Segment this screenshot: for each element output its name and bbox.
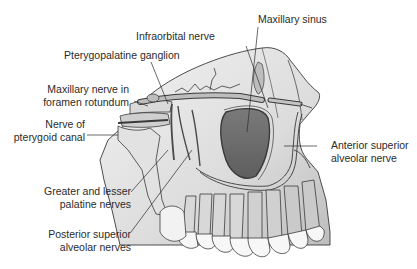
maxillary-nerve-diagram: Infraorbital nerve Maxillary sinus Ptery… (0, 0, 417, 269)
label-infraorbital-nerve: Infraorbital nerve (136, 30, 215, 43)
label-greater-lesser-palatine-nerves: Greater and lesser palatine nerves (44, 185, 131, 210)
label-maxillary-nerve-foramen-rotundum: Maxillary nerve in foramen rotundum (43, 83, 129, 108)
label-posterior-superior-alveolar-nerves: Posterior superior alveolar nerves (48, 228, 131, 253)
label-pterygopalatine-ganglion: Pterygopalatine ganglion (64, 49, 180, 62)
label-maxillary-sinus: Maxillary sinus (258, 13, 327, 26)
label-anterior-superior-alveolar-nerve: Anterior superior alveolar nerve (331, 139, 409, 164)
label-nerve-of-pterygoid-canal: Nerve of pterygoid canal (14, 118, 85, 143)
